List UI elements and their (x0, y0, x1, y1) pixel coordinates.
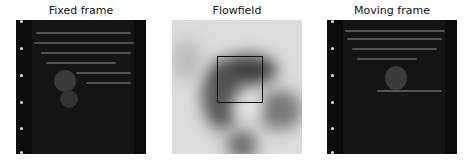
moving-frame-image (327, 20, 457, 154)
fixed-frame-title: Fixed frame (11, 4, 151, 17)
highlight-box (217, 56, 263, 103)
flowfield-title: Flowfield (167, 4, 307, 17)
moving-frame-title: Moving frame (322, 4, 462, 17)
flowfield-image (172, 20, 302, 154)
fixed-frame-image (16, 20, 146, 154)
